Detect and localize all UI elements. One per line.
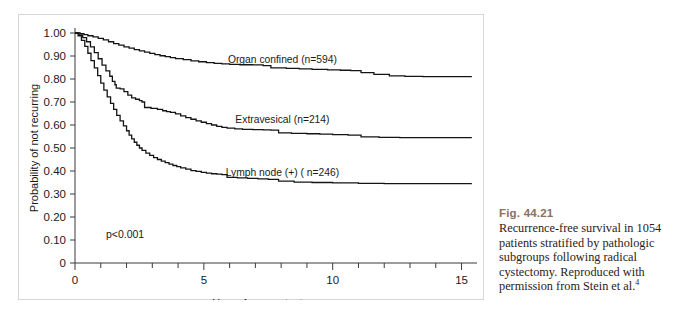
- y-axis-tick-label: 1.00: [44, 27, 66, 39]
- caption-title: Fig. 44.21: [499, 207, 685, 220]
- y-axis-tick-label: 0.90: [44, 50, 66, 62]
- x-axis-tick-label: 15: [455, 274, 468, 286]
- x-axis-tick-label: 10: [326, 274, 339, 286]
- x-axis-title: Years from cystectomy: [213, 297, 324, 300]
- figure-root: 00.100.200.300.400.500.600.700.800.901.0…: [0, 0, 691, 320]
- y-axis-title: Probability of not recurring: [28, 84, 40, 212]
- series-label: Organ confined (n=594): [228, 54, 337, 65]
- x-axis-tick-label: 0: [72, 274, 78, 286]
- y-axis-tick-label: 0.80: [44, 73, 66, 85]
- y-axis-tick-label: 0.60: [44, 119, 66, 131]
- caption-footnote-marker: 4: [635, 278, 639, 287]
- pvalue-annotation: p<0.001: [106, 228, 144, 240]
- y-axis-tick-label: 0: [60, 257, 66, 269]
- y-axis-tick-label: 0.50: [44, 142, 66, 154]
- x-axis-tick-label: 5: [201, 274, 207, 286]
- caption-text: Recurrence-free survival in 1054 patient…: [499, 221, 685, 294]
- series-label: Extravesical (n=214): [235, 114, 329, 125]
- y-axis-tick-label: 0.40: [44, 165, 66, 177]
- kaplan-meier-chart: 00.100.200.300.400.500.600.700.800.901.0…: [18, 14, 484, 300]
- figure-caption: Fig. 44.21 Recurrence-free survival in 1…: [499, 207, 685, 294]
- y-axis-tick-label: 0.20: [44, 211, 66, 223]
- y-axis-tick-label: 0.30: [44, 188, 66, 200]
- y-axis-tick-label: 0.10: [44, 234, 66, 246]
- y-axis-tick-label: 0.70: [44, 96, 66, 108]
- series-label: Lymph node (+) ( n=246): [226, 167, 340, 178]
